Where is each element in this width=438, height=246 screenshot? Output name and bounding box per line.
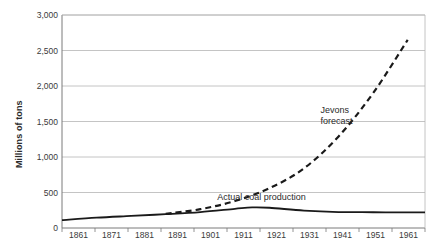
gridlines	[62, 15, 425, 193]
chart-canvas	[0, 0, 438, 246]
annotation-line: forecast	[321, 116, 353, 127]
series-line-solid	[62, 207, 425, 220]
series-line-dashed	[166, 40, 408, 214]
annotation-line: Actual coal production	[217, 192, 306, 203]
annotation-line: Jevons	[321, 105, 353, 116]
x-axis-tick-marks	[62, 228, 425, 232]
actual-production-label: Actual coal production	[217, 192, 306, 203]
coal-production-chart: Millions of tons 05001,0001,5002,0002,50…	[0, 0, 438, 246]
jevons-forecast-label: Jevonsforecast	[321, 105, 353, 127]
